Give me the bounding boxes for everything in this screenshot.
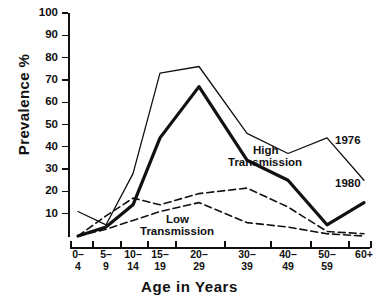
x-tick-label-60+: 60+ <box>344 249 379 261</box>
x-tick-5 <box>224 241 226 248</box>
series-line-high-transmission-1976 <box>78 67 364 225</box>
x-tick-label-bottom: 19 <box>140 261 180 273</box>
x-tick-label-bottom: 29 <box>179 261 219 273</box>
x-tick-label-40-49: 40–49 <box>268 249 308 272</box>
series-label-1980-high: 1980 <box>335 177 361 190</box>
x-tick-1 <box>92 241 94 248</box>
x-tick-label-top: 30– <box>227 249 267 261</box>
x-tick-label-bottom: 59 <box>307 261 347 273</box>
x-tick-label-bottom: 39 <box>227 261 267 273</box>
x-tick-8 <box>348 241 350 248</box>
x-tick-label-top: 20– <box>179 249 219 261</box>
x-tick-label-top: 40– <box>268 249 308 261</box>
x-tick-0 <box>70 241 72 248</box>
x-tick-label-top: 60+ <box>344 249 379 261</box>
x-tick-9 <box>370 241 372 248</box>
x-tick-label-15-19: 15–19 <box>140 249 180 272</box>
x-tick-label-top: 50– <box>307 249 347 261</box>
x-tick-7 <box>310 241 312 248</box>
chart-root: Prevalence % 100908070605040302010 1976 … <box>0 0 379 304</box>
x-tick-label-bottom: 49 <box>268 261 308 273</box>
low-transmission-label-line1: Low <box>166 213 189 226</box>
x-axis-title: Age in Years <box>0 278 379 295</box>
x-tick-label-30-39: 30–39 <box>227 249 267 272</box>
x-tick-label-top: 15– <box>140 249 180 261</box>
x-tick-6 <box>270 241 272 248</box>
low-transmission-label-line2: Transmission <box>140 225 214 238</box>
high-transmission-label-line2: Transmission <box>228 156 302 169</box>
x-tick-label-20-29: 20–29 <box>179 249 219 272</box>
x-tick-4 <box>175 241 177 248</box>
x-tick-2 <box>120 241 122 248</box>
x-tick-label-50-59: 50–59 <box>307 249 347 272</box>
high-transmission-label-line1: High <box>253 144 279 157</box>
x-tick-3 <box>147 241 149 248</box>
series-label-1976-high: 1976 <box>335 134 361 147</box>
series-line-high-transmission-1980 <box>78 87 364 236</box>
